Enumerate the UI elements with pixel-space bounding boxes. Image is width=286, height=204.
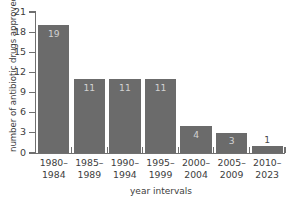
y-axis-tick <box>29 32 35 33</box>
x-axis-category-label: 2010–2023 <box>245 157 286 180</box>
y-axis-tick <box>29 152 35 153</box>
x-axis-tick <box>71 147 72 153</box>
y-axis-tick <box>29 132 35 133</box>
x-axis-tick <box>284 147 285 153</box>
y-axis-tick-label: 6 <box>0 106 26 117</box>
y-axis-tick <box>29 92 35 93</box>
bar-value-label: 11 <box>74 82 105 93</box>
y-axis-tick <box>29 52 35 53</box>
y-axis-tick <box>29 72 35 73</box>
bar <box>252 146 283 153</box>
bar-chart: number of antibiotic drugs approved year… <box>0 0 286 204</box>
bar-value-label: 11 <box>145 82 176 93</box>
x-axis-tick <box>213 147 214 153</box>
y-axis-tick-label: 21 <box>0 6 26 17</box>
x-axis-tick <box>178 147 179 153</box>
bar-value-label: 1 <box>252 134 283 145</box>
bar-value-label: 11 <box>109 82 140 93</box>
bar-value-label: 4 <box>180 129 211 140</box>
y-axis-tick-label: 9 <box>0 86 26 97</box>
y-axis-tick <box>29 112 35 113</box>
y-axis-line <box>35 11 36 154</box>
y-axis-tick-label: 15 <box>0 46 26 57</box>
x-axis-tick <box>142 147 143 153</box>
y-axis-tick-label: 18 <box>0 26 26 37</box>
bar-value-label: 3 <box>216 135 247 146</box>
x-axis-title: year intervals <box>36 186 286 196</box>
bar <box>38 25 69 153</box>
y-axis-tick-label: 0 <box>0 147 26 158</box>
bar-value-label: 19 <box>38 28 69 39</box>
y-axis-tick <box>29 11 35 12</box>
y-axis-tick-label: 3 <box>0 126 26 137</box>
y-axis-tick-label: 12 <box>0 66 26 77</box>
x-axis-tick <box>107 147 108 153</box>
x-axis-tick <box>249 147 250 153</box>
x-axis-line <box>35 153 285 154</box>
